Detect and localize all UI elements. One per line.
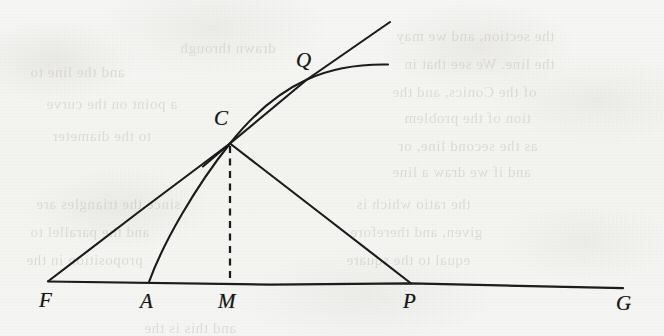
vertex-m-label: M	[218, 291, 236, 312]
vertex-a-label: A	[140, 291, 153, 312]
segment-line-cp	[230, 144, 411, 284]
segment-line-fc	[49, 144, 231, 282]
vertex-f-label: F	[39, 290, 52, 311]
vertex-p-label: P	[403, 291, 416, 312]
baseline-line-fg	[48, 282, 623, 289]
figure-drawing	[0, 0, 664, 336]
vertex-c-label: C	[214, 108, 228, 129]
geometry-figure: the section, and we maythe line. We see …	[0, 0, 664, 336]
vertex-g-label: G	[616, 293, 631, 314]
vertex-q-label: Q	[296, 50, 311, 71]
